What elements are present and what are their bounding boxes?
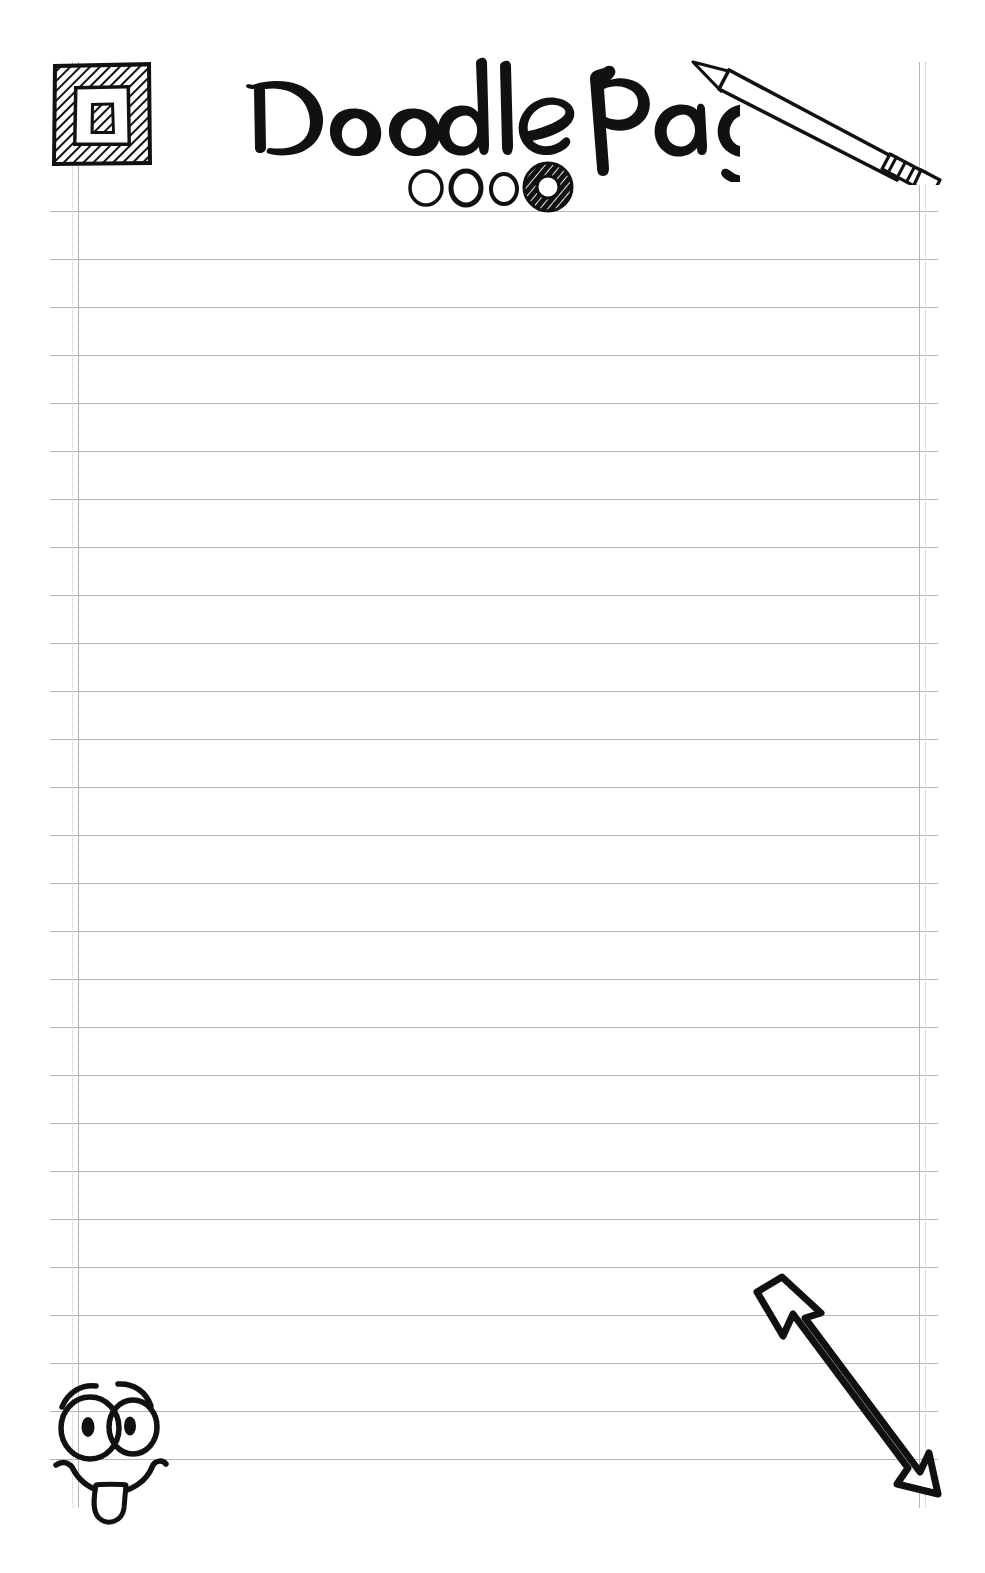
ruled-line xyxy=(50,883,938,884)
ruled-line xyxy=(50,787,938,788)
left-margin-line-inner xyxy=(78,62,79,1508)
ruled-line xyxy=(50,739,938,740)
ruled-line xyxy=(50,643,938,644)
circle-2 xyxy=(451,171,481,205)
ruled-line xyxy=(50,1027,938,1028)
ruled-line xyxy=(50,979,938,980)
pencil-doodle-icon xyxy=(685,50,950,185)
circle-1 xyxy=(410,171,442,205)
ruled-line xyxy=(50,1075,938,1076)
ruled-line xyxy=(50,1123,938,1124)
ruled-line xyxy=(50,307,938,308)
up-left-arrow-doodle xyxy=(745,1272,945,1517)
ruled-line xyxy=(50,595,938,596)
ruled-line xyxy=(50,259,938,260)
circle-4 xyxy=(524,163,572,211)
ruled-line xyxy=(50,499,938,500)
circle-dots-row xyxy=(400,160,595,215)
left-margin-line-outer xyxy=(72,62,73,1508)
ruled-line xyxy=(50,451,938,452)
ruled-line xyxy=(50,1219,938,1220)
ruled-line xyxy=(50,691,938,692)
ruled-line xyxy=(50,835,938,836)
ruled-line xyxy=(50,931,938,932)
circle-3 xyxy=(491,174,517,204)
ruled-line xyxy=(50,403,938,404)
page-header: Doodle Page xyxy=(0,0,985,211)
doodle-page-sheet: Doodle Page xyxy=(0,0,985,1573)
square-frame-doodle-icon xyxy=(48,58,156,170)
ruled-line xyxy=(50,547,938,548)
ruled-line xyxy=(50,1171,938,1172)
smiley-face-tongue-doodle xyxy=(52,1372,182,1537)
ruled-line xyxy=(50,355,938,356)
ruled-line xyxy=(50,1267,938,1268)
